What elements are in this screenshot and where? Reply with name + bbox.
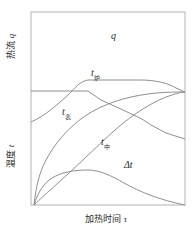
curve-label-q: q xyxy=(111,30,116,41)
x-axis-symbol: τ xyxy=(124,214,127,224)
x-axis-label-heating-time: 加热时间 τ xyxy=(56,212,156,225)
y-axis-label-heat-flux: 热流 q xyxy=(4,26,17,68)
curve-delta-t xyxy=(34,170,185,205)
curve-t-furnace xyxy=(31,80,185,122)
curve-label-delta-t: Δt xyxy=(124,159,133,170)
y-axis-bottom-text: 温度 xyxy=(6,150,16,168)
curve-label-t-surface-sub: 表 xyxy=(65,113,71,120)
curve-label-q-text: q xyxy=(111,30,116,41)
y-axis-top-symbol: q xyxy=(6,34,16,39)
chart-svg xyxy=(0,0,194,236)
y-axis-label-temperature: 温度 t xyxy=(4,136,17,178)
y-axis-top-text: 热流 xyxy=(6,41,16,59)
figure-container: 热流 q 温度 t 加热时间 τ q t炉 t表 t中 Δt xyxy=(0,0,194,236)
curve-label-t-surface: t表 xyxy=(62,106,71,120)
plot-frame xyxy=(31,12,185,205)
curve-label-t-furnace: t炉 xyxy=(91,67,100,81)
curve-label-t-center: t中 xyxy=(101,136,110,150)
curve-label-delta-t-text: Δt xyxy=(124,159,133,170)
x-axis-text: 加热时间 xyxy=(85,214,121,224)
curve-label-t-center-sub: 中 xyxy=(104,143,110,150)
y-axis-bottom-symbol: t xyxy=(6,145,16,148)
curve-label-t-furnace-sub: 炉 xyxy=(94,74,100,81)
